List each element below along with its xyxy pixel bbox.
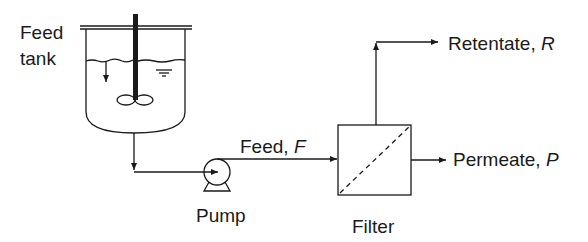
permeate-symbol: P [546, 149, 559, 170]
pump-icon [204, 159, 230, 191]
membrane [340, 127, 409, 193]
filter-icon [338, 125, 411, 195]
retentate-text: Retentate, [448, 33, 541, 54]
filter-label: Filter [352, 217, 394, 237]
feed-tank-label-line1: Feed [20, 23, 63, 43]
agitator-shaft [133, 14, 138, 100]
permeate-label: Permeate, P [453, 150, 559, 170]
retentate-stream [376, 42, 438, 125]
pump-label-text: Pump [196, 205, 246, 226]
permeate-text: Permeate, [453, 149, 546, 170]
feed-stream-label: Feed, F [240, 137, 305, 157]
feed-symbol: F [294, 136, 306, 157]
retentate-label: Retentate, R [448, 34, 555, 54]
feed-tank-label: Feed tank [20, 23, 63, 69]
feed-tank-label-line2: tank [20, 49, 63, 69]
feed-stream-text: Feed, [240, 136, 294, 157]
filter-label-text: Filter [352, 216, 394, 237]
pump-label: Pump [196, 206, 246, 226]
retentate-symbol: R [541, 33, 555, 54]
